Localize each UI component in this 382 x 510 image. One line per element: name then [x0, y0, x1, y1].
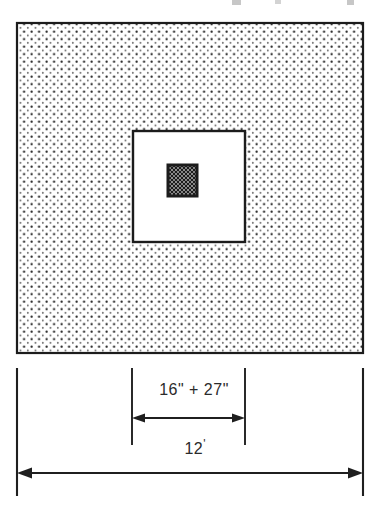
inner-dimension-arrow — [132, 414, 245, 423]
outer-dimension-arrow — [17, 468, 363, 479]
inner-dimension-label: 16" + 27" — [0, 381, 382, 399]
inner-crosshatched-square — [168, 165, 197, 196]
top-crop-marks — [232, 0, 354, 5]
figure-root: 16" + 27" 12' — [0, 0, 382, 510]
technical-drawing-canvas — [0, 0, 382, 510]
outer-dimension-value: 12 — [184, 440, 203, 457]
outer-dimension-label: 12' — [0, 437, 382, 458]
outer-dimension-unit: ' — [203, 437, 205, 451]
